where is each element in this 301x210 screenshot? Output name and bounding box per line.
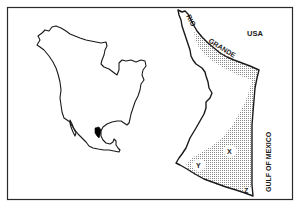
north-america-outline bbox=[37, 26, 146, 152]
overview-map bbox=[37, 26, 146, 152]
map-figure: RIO GRANDE USA GULF OF MEXICO X Y Z bbox=[0, 0, 301, 210]
site-label-z: Z bbox=[244, 187, 249, 194]
map-svg: RIO GRANDE USA GULF OF MEXICO X Y Z bbox=[0, 0, 301, 210]
site-label-x: X bbox=[227, 148, 232, 155]
country-label-usa: USA bbox=[247, 29, 263, 38]
site-label-y: Y bbox=[196, 162, 201, 169]
river-label-rio: RIO bbox=[185, 13, 197, 28]
detail-map: RIO GRANDE USA GULF OF MEXICO X Y Z bbox=[176, 10, 272, 196]
highlighted-study-region bbox=[95, 127, 101, 138]
sea-label-gulf-of-mexico: GULF OF MEXICO bbox=[265, 131, 272, 192]
